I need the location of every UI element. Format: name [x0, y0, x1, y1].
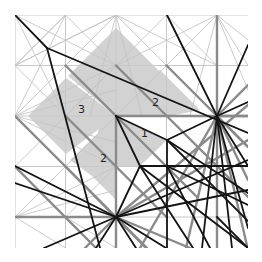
- label-region-1: 1: [141, 127, 148, 140]
- crease-pattern-svg: 3 2 1 2: [0, 0, 262, 262]
- crease-pattern-diagram: 3 2 1 2: [0, 0, 262, 262]
- label-region-2-lower: 2: [100, 152, 107, 165]
- label-region-3: 3: [78, 103, 85, 116]
- label-region-2-upper: 2: [152, 96, 159, 109]
